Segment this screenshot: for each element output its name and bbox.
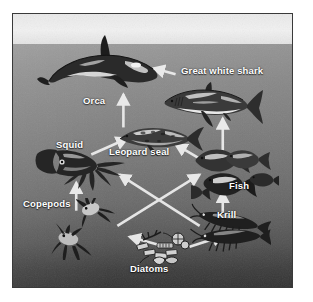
label-orca: Orca — [83, 96, 105, 106]
fish-illustration — [191, 142, 279, 204]
label-fish: Fish — [229, 181, 249, 191]
illustration-frame: Orca Great white shark Leopard seal Squi… — [12, 13, 293, 288]
food-web-figure: Orca Great white shark Leopard seal Squi… — [0, 0, 313, 302]
label-diatoms: Diatoms — [130, 264, 169, 274]
label-copepods: Copepods — [23, 199, 71, 209]
orca-illustration — [37, 34, 167, 96]
label-squid: Squid — [56, 140, 83, 150]
krill-illustration — [189, 196, 271, 254]
label-krill: Krill — [217, 210, 236, 220]
label-leopard-seal: Leopard seal — [109, 147, 169, 157]
label-great-white-shark: Great white shark — [181, 66, 263, 76]
